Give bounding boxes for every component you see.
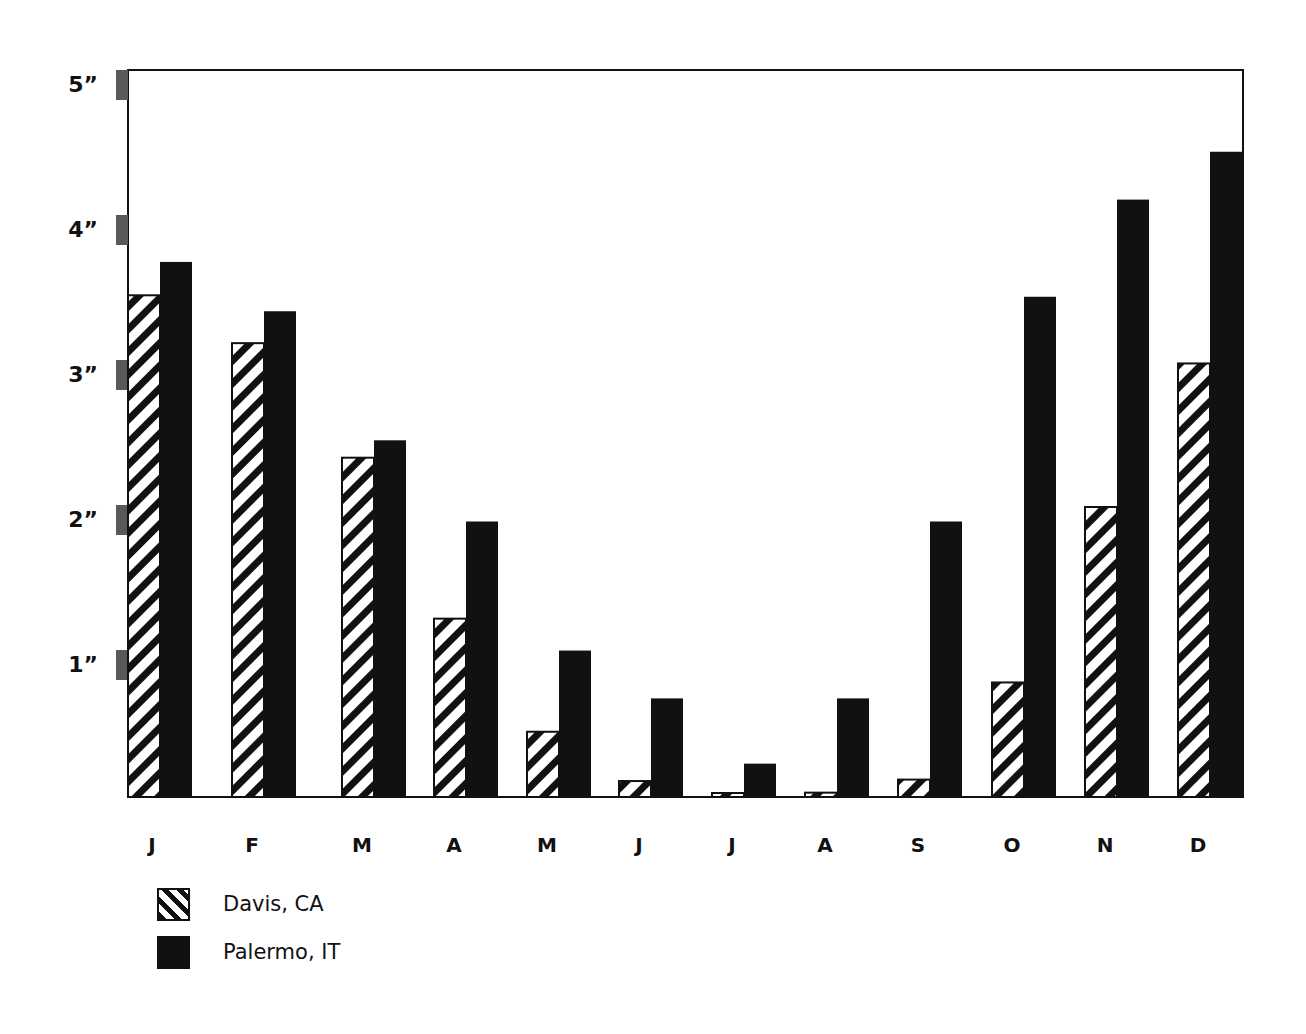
- x-tick-label: A: [446, 833, 462, 857]
- x-axis: JFMAMJJASOND: [146, 833, 1206, 857]
- bar-davis: [619, 781, 651, 797]
- x-tick-label: J: [633, 833, 642, 857]
- y-tick-marker: [116, 360, 128, 390]
- bar-davis: [992, 682, 1024, 797]
- legend-item-palermo: Palermo, IT: [157, 932, 340, 972]
- bar-palermo: [651, 698, 683, 797]
- bar-davis: [434, 619, 466, 797]
- x-tick-label: N: [1097, 833, 1114, 857]
- bar-davis: [128, 295, 160, 797]
- x-tick-label: F: [245, 833, 259, 857]
- x-tick-label: J: [146, 833, 155, 857]
- bar-davis: [232, 343, 264, 797]
- y-tick-marker: [116, 215, 128, 245]
- legend-item-davis: Davis, CA: [157, 884, 340, 924]
- rainfall-bar-chart: 1”2”3”4”5” JFMAMJJASOND: [0, 0, 1306, 1034]
- bar-palermo: [160, 262, 192, 797]
- bar-davis: [527, 732, 559, 797]
- bars: [128, 152, 1242, 797]
- legend-label: Palermo, IT: [223, 940, 340, 964]
- x-tick-label: O: [1003, 833, 1020, 857]
- y-tick-label: 4”: [68, 217, 98, 242]
- legend: Davis, CA Palermo, IT: [157, 884, 340, 980]
- hatch-swatch-icon: [157, 888, 190, 921]
- bar-palermo: [466, 522, 498, 798]
- x-tick-label: M: [352, 833, 372, 857]
- bar-palermo: [837, 698, 869, 797]
- bar-palermo: [559, 651, 591, 797]
- y-tick-label: 3”: [68, 362, 98, 387]
- bar-davis: [1178, 363, 1210, 797]
- x-tick-label: D: [1190, 833, 1207, 857]
- x-tick-label: S: [911, 833, 925, 857]
- bar-palermo: [1117, 200, 1149, 797]
- solid-swatch-icon: [157, 936, 190, 969]
- y-axis: 1”2”3”4”5”: [68, 70, 128, 680]
- y-tick-label: 1”: [68, 652, 98, 677]
- y-tick-marker: [116, 70, 128, 100]
- bar-davis: [805, 793, 837, 797]
- bar-palermo: [744, 764, 776, 797]
- bar-davis: [898, 780, 930, 797]
- bar-palermo: [930, 522, 962, 798]
- bar-davis: [1085, 507, 1117, 797]
- y-tick-marker: [116, 650, 128, 680]
- bar-davis: [712, 793, 744, 797]
- bar-palermo: [264, 311, 296, 797]
- bar-palermo: [1210, 152, 1242, 797]
- bar-palermo: [374, 440, 406, 797]
- legend-label: Davis, CA: [223, 892, 324, 916]
- x-tick-label: A: [817, 833, 833, 857]
- x-tick-label: J: [726, 833, 735, 857]
- y-tick-marker: [116, 505, 128, 535]
- y-tick-label: 5”: [68, 72, 98, 97]
- bar-palermo: [1024, 297, 1056, 797]
- bar-davis: [342, 458, 374, 797]
- x-tick-label: M: [537, 833, 557, 857]
- y-tick-label: 2”: [68, 507, 98, 532]
